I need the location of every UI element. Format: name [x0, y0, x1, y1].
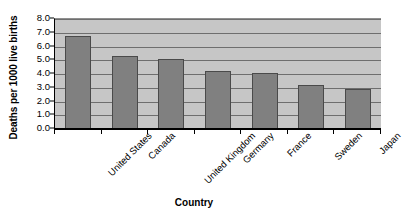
- y-tick-mark: [50, 18, 54, 19]
- y-tick-label: 3.0: [24, 82, 50, 92]
- y-tick-mark: [50, 86, 54, 87]
- y-tick-mark: [50, 100, 54, 101]
- x-tick-mark: [194, 129, 195, 134]
- y-tick-label: 7.0: [24, 27, 50, 37]
- plot-top-edge: [55, 19, 381, 20]
- x-tick-mark: [333, 129, 334, 134]
- gridline: [55, 47, 381, 48]
- y-tick-label: 8.0: [24, 13, 50, 23]
- x-tick-mark: [54, 129, 55, 134]
- bar: [158, 59, 184, 129]
- y-tick-label: 2.0: [24, 96, 50, 106]
- x-axis-category-labels: United StatesCanadaUnited KingdomGermany…: [0, 130, 388, 192]
- x-category-label: France: [284, 130, 313, 159]
- y-tick-mark: [50, 31, 54, 32]
- y-tick-label: 5.0: [24, 55, 50, 65]
- bar: [252, 73, 278, 129]
- bar: [345, 89, 371, 129]
- bar: [298, 85, 324, 129]
- gridline: [55, 60, 381, 61]
- y-tick-mark: [50, 73, 54, 74]
- x-tick-mark: [240, 129, 241, 134]
- x-tick-mark: [101, 129, 102, 134]
- plot-area: [54, 18, 381, 129]
- y-tick-label: 6.0: [24, 41, 50, 51]
- bar: [112, 56, 138, 129]
- y-tick-mark: [50, 114, 54, 115]
- y-tick-label: 4.0: [24, 68, 50, 78]
- y-tick-mark: [50, 59, 54, 60]
- bar: [65, 36, 91, 130]
- x-category-label: Sweden: [332, 130, 364, 162]
- y-axis-tick-labels: 8.07.06.05.04.03.02.01.00.0: [24, 18, 50, 128]
- x-axis-title: Country: [0, 197, 388, 208]
- x-tick-mark: [287, 129, 288, 134]
- x-tick-mark: [147, 129, 148, 134]
- y-tick-label: 1.0: [24, 110, 50, 120]
- bar: [205, 71, 231, 129]
- y-tick-mark: [50, 45, 54, 46]
- x-tick-mark: [380, 129, 381, 134]
- gridline: [55, 33, 381, 34]
